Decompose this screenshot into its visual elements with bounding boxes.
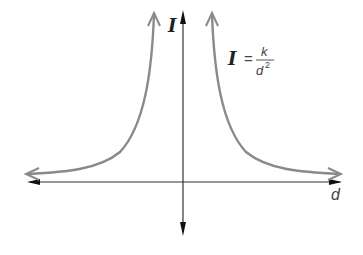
axis-arrow-up-icon: [180, 10, 186, 24]
equation-numerator: k: [261, 44, 269, 59]
equation-lhs: I: [227, 48, 237, 69]
axis-arrow-down-icon: [180, 222, 186, 236]
equation: I = k d 2: [227, 44, 274, 78]
equation-equals: =: [244, 50, 253, 67]
i-axis: [180, 10, 186, 236]
curve-right-branch: [206, 13, 341, 180]
y-axis-label: I: [167, 15, 177, 36]
inverse-square-diagram: I d I = k d 2: [0, 0, 363, 255]
axis-arrow-right-icon: [329, 179, 342, 185]
curve-left-branch: [26, 13, 160, 180]
equation-denominator-base: d: [256, 63, 264, 78]
equation-denominator-exponent: 2: [265, 60, 270, 70]
x-axis-label: d: [331, 186, 341, 203]
d-axis: [27, 179, 342, 185]
